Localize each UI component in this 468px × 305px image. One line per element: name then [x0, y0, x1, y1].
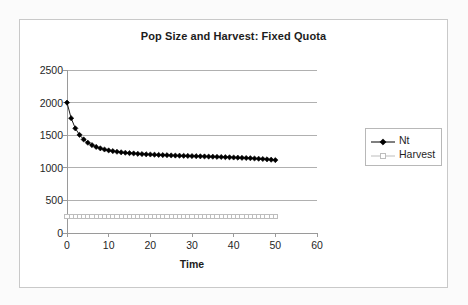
x-tick-label: 10: [103, 239, 115, 251]
data-point-marker: [73, 126, 78, 131]
chart-title: Pop Size and Harvest: Fixed Quota: [20, 30, 447, 42]
data-point-marker: [261, 215, 265, 219]
data-point-marker: [257, 215, 261, 219]
data-point-marker: [381, 154, 386, 159]
data-point-marker: [190, 215, 194, 219]
data-point-marker: [240, 215, 244, 219]
legend-label: Harvest: [396, 148, 435, 160]
data-point-marker: [148, 215, 152, 219]
data-point-marker: [123, 215, 127, 219]
data-point-marker: [132, 215, 136, 219]
legend-marker-open-square-icon: [370, 148, 396, 160]
data-point-marker: [140, 215, 144, 219]
data-point-marker: [69, 215, 73, 219]
data-point-marker: [157, 215, 161, 219]
y-tick-label: 2000: [40, 97, 63, 109]
data-point-marker: [65, 215, 69, 219]
y-tick-label: 2500: [40, 64, 63, 76]
y-tick-label: 500: [45, 194, 63, 206]
y-axis-tick-labels: 05001000150020002500: [20, 70, 63, 233]
data-point-marker: [194, 215, 198, 219]
x-axis-tick-labels: 0102030405060: [67, 239, 317, 255]
chart-frame: Pop Size and Harvest: Fixed Quota 050010…: [19, 19, 448, 288]
data-point-marker: [223, 215, 227, 219]
data-point-marker: [244, 215, 248, 219]
data-point-marker: [219, 215, 223, 219]
data-point-marker: [273, 215, 277, 219]
data-point-marker: [169, 215, 173, 219]
y-tick-label: 1000: [40, 162, 63, 174]
data-point-marker: [211, 215, 215, 219]
data-point-marker: [227, 215, 231, 219]
legend-label: Nt: [396, 134, 410, 146]
x-tick-label: 20: [144, 239, 156, 251]
data-point-marker: [111, 215, 115, 219]
data-point-marker: [77, 215, 81, 219]
data-point-marker: [165, 215, 169, 219]
plot-area: [67, 70, 317, 233]
plot-svg: [67, 70, 317, 233]
data-point-marker: [161, 215, 165, 219]
series-nt: [64, 100, 278, 163]
data-point-marker: [273, 158, 278, 163]
series-line: [67, 103, 275, 161]
data-point-marker: [90, 215, 94, 219]
x-tick-label: 60: [311, 239, 323, 251]
data-point-marker: [177, 215, 181, 219]
x-axis-title: Time: [67, 258, 317, 270]
data-point-marker: [265, 215, 269, 219]
data-point-marker: [173, 215, 177, 219]
legend-marker-filled-diamond-icon: [370, 134, 396, 146]
data-point-marker: [269, 215, 273, 219]
x-tick-label: 30: [186, 239, 198, 251]
data-point-marker: [102, 147, 107, 152]
legend-item-harvest[interactable]: Harvest: [370, 147, 435, 161]
legend-item-nt[interactable]: Nt: [370, 133, 435, 147]
x-tick-label: 40: [228, 239, 240, 251]
data-point-marker: [115, 215, 119, 219]
x-tick-label: 50: [269, 239, 281, 251]
data-point-marker: [215, 215, 219, 219]
data-point-marker: [144, 215, 148, 219]
y-tick-label: 1500: [40, 129, 63, 141]
data-point-marker: [106, 148, 111, 153]
data-point-marker: [380, 139, 386, 145]
data-point-marker: [152, 215, 156, 219]
y-tick-label: 0: [57, 227, 63, 239]
data-point-marker: [73, 215, 77, 219]
data-point-marker: [136, 215, 140, 219]
data-point-marker: [186, 215, 190, 219]
data-point-marker: [94, 215, 98, 219]
x-tick-label: 0: [64, 239, 70, 251]
chart-legend: NtHarvest: [365, 128, 442, 166]
data-point-marker: [202, 215, 206, 219]
data-point-marker: [119, 215, 123, 219]
data-point-marker: [69, 116, 74, 121]
data-point-marker: [198, 215, 202, 219]
data-point-marker: [236, 215, 240, 219]
data-point-marker: [182, 215, 186, 219]
data-point-marker: [232, 215, 236, 219]
series-harvest: [65, 215, 278, 219]
data-point-marker: [248, 215, 252, 219]
data-point-marker: [64, 100, 69, 105]
data-point-marker: [102, 215, 106, 219]
data-point-marker: [127, 215, 131, 219]
data-point-marker: [98, 215, 102, 219]
data-point-marker: [207, 215, 211, 219]
data-point-marker: [82, 215, 86, 219]
data-point-marker: [86, 215, 90, 219]
data-point-marker: [107, 215, 111, 219]
data-point-marker: [252, 215, 256, 219]
